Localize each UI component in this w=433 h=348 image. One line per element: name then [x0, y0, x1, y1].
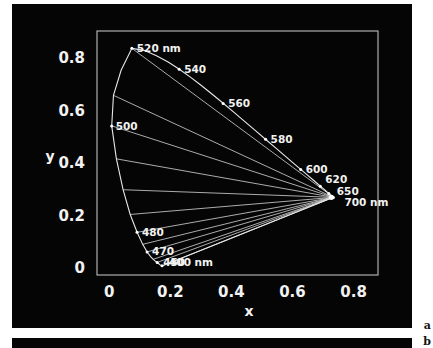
figure-page: 00.20.40.60.800.20.40.60.8 520 nm5405605… [0, 0, 433, 348]
y-axis-title: y [45, 148, 54, 164]
mixing-line-520 [132, 48, 333, 197]
wavelength-label-560: 560 [228, 97, 250, 109]
wavelength-marker-620 [319, 185, 322, 188]
mixing-line-495 [116, 159, 333, 197]
mixing-line-500 [112, 126, 334, 197]
wavelength-marker-400 [161, 264, 164, 267]
wavelength-label-520: 520 nm [137, 42, 181, 54]
x-axis-title: x [244, 303, 253, 319]
wavelength-annotations-group: 520 nm540560580600620650700 nm5004804704… [110, 42, 388, 268]
mixing-line-460 [153, 197, 333, 259]
wavelength-label-620: 620 [325, 173, 347, 185]
wavelength-marker-580 [264, 138, 267, 141]
wavelength-label-540: 540 [184, 63, 206, 75]
wavelength-marker-480 [136, 231, 139, 234]
mixing-line-480 [137, 197, 333, 232]
convergence-point-marker [329, 195, 334, 200]
x-tick-label-0: 0 [104, 283, 114, 301]
wavelength-marker-450 [156, 261, 159, 264]
panel-label-a: a [424, 320, 431, 331]
wavelength-label-500: 500 [116, 120, 138, 132]
y-tick-label-1: 0.2 [58, 207, 85, 225]
wavelength-marker-540 [178, 68, 181, 71]
panel-a-chromaticity-diagram: 00.20.40.60.800.20.40.60.8 520 nm5405605… [12, 4, 412, 328]
wavelength-marker-500 [110, 124, 113, 127]
x-tick-label-3: 0.6 [279, 283, 306, 301]
y-tick-label-3: 0.6 [58, 102, 85, 120]
cie-chromaticity-chart: 00.20.40.60.800.20.40.60.8 520 nm5405605… [12, 4, 412, 328]
mixing-line-475 [143, 197, 334, 244]
wavelength-label-400: 400 nm [169, 256, 213, 268]
wavelength-marker-560 [222, 102, 225, 105]
mixing-line-510 [113, 95, 333, 197]
wavelength-marker-600 [299, 168, 302, 171]
y-tick-label-0: 0 [75, 259, 85, 277]
x-tick-label-4: 0.8 [340, 283, 367, 301]
wavelength-marker-520 [130, 47, 133, 50]
wavelength-label-580: 580 [271, 133, 293, 145]
y-tick-label-4: 0.8 [58, 49, 85, 67]
wavelength-marker-650 [327, 192, 330, 195]
x-tick-label-1: 0.2 [157, 283, 184, 301]
wavelength-label-700: 700 nm [344, 196, 388, 208]
y-tick-label-2: 0.4 [58, 154, 85, 172]
panel-label-b: b [423, 336, 431, 347]
x-tick-label-2: 0.4 [218, 283, 245, 301]
wavelength-label-480: 480 [142, 226, 164, 238]
panel-b-strip [12, 338, 412, 348]
mixing-line-490 [123, 190, 333, 198]
mixing-line-450 [157, 197, 333, 262]
wavelength-marker-470 [146, 250, 149, 253]
